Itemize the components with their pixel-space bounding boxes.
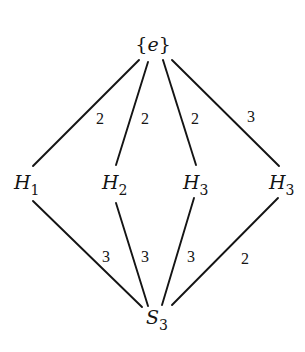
node-h1: H1	[13, 171, 40, 198]
node-identity: {e}	[135, 33, 170, 55]
edge-label-h3b-s3: 2	[241, 250, 249, 267]
node-h3-second: H3	[268, 171, 295, 198]
subgroup-lattice-diagram: {e} H1 H2 H3 H3 S3 2 2 2 3 3 3 3 2	[0, 0, 305, 352]
edge-e-h3b	[172, 60, 279, 166]
edge-label-h3a-s3: 3	[187, 248, 195, 265]
edge-label-e-h3b: 3	[247, 108, 255, 125]
edge-label-e-h1: 2	[96, 110, 104, 127]
edge-label-h1-s3: 3	[102, 248, 110, 265]
node-h3-first: H3	[182, 171, 209, 198]
edge-label-h2-s3: 3	[141, 248, 149, 265]
edge-h1-s3	[33, 201, 142, 307]
node-h2: H2	[101, 171, 128, 198]
node-s3: S3	[146, 306, 168, 333]
edge-label-e-h3a: 2	[191, 110, 199, 127]
edge-e-h1	[33, 60, 139, 166]
edge-label-e-h2: 2	[141, 110, 149, 127]
